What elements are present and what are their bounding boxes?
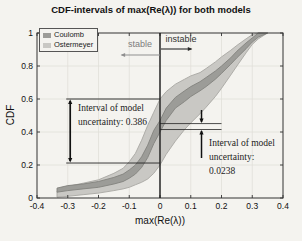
ostermeyer-band-swatch	[43, 43, 51, 48]
right-interval-line2: uncertainty:	[209, 150, 275, 164]
y-tick-label: 0.4	[0, 127, 33, 137]
y-tick-label: 0.8	[0, 61, 33, 71]
legend-item-ostermeyer: Ostermeyer	[43, 41, 93, 49]
coulomb-band-swatch	[43, 33, 51, 38]
right-interval-line3: 0.0238	[209, 164, 275, 178]
instable-region-label: instable	[151, 34, 211, 44]
x-tick-label: 0.1	[185, 201, 197, 211]
x-tick-label: 0.3	[246, 201, 258, 211]
right-interval-upper-arrowhead	[199, 119, 203, 124]
x-tick-label: -0.2	[91, 201, 106, 211]
left-interval-arrowhead-up	[68, 100, 72, 105]
legend: Coulomb Ostermeyer	[39, 28, 98, 52]
x-tick-label: 0.4	[277, 201, 289, 211]
legend-label-ostermeyer: Ostermeyer	[54, 41, 93, 49]
right-interval-annotation: Interval of model uncertainty: 0.0238	[209, 136, 275, 178]
y-tick-label: 1	[0, 28, 33, 38]
instable-arrowhead	[188, 47, 193, 51]
left-interval-line2: uncertainty: 0.386	[78, 115, 147, 129]
y-tick-label: 0.6	[0, 94, 33, 104]
cdf-intervals-figure: CDF-intervals of max(Re(λ)) for both mod…	[0, 0, 302, 241]
chart-title: CDF-intervals of max(Re(λ)) for both mod…	[0, 4, 302, 15]
left-interval-arrowhead-down	[68, 158, 72, 163]
legend-item-coulomb: Coulomb	[43, 31, 93, 39]
x-tick-label: -0.3	[60, 201, 75, 211]
left-interval-annotation: Interval of model uncertainty: 0.386	[78, 101, 147, 129]
x-axis-label: max(Re(λ))	[37, 215, 283, 226]
x-tick-label: -0.1	[122, 201, 137, 211]
right-interval-line1: Interval of model	[209, 136, 275, 150]
left-interval-line1: Interval of model	[78, 101, 147, 115]
y-tick-label: 0.2	[0, 160, 33, 170]
x-tick-label: 0	[158, 201, 163, 211]
y-tick-label: 0	[0, 193, 33, 203]
legend-label-coulomb: Coulomb	[54, 31, 84, 39]
x-tick-label: 0.2	[216, 201, 228, 211]
